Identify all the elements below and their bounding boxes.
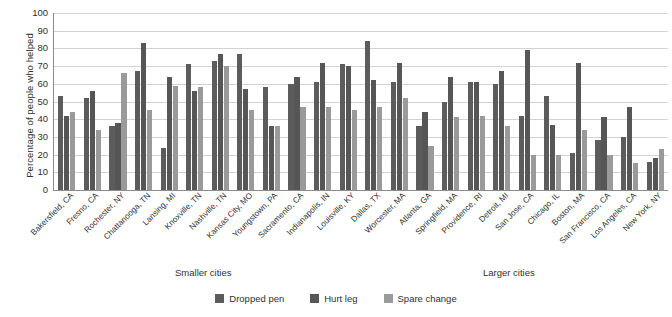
bar-2	[480, 116, 485, 190]
y-axis-tick-label: 20	[21, 150, 48, 160]
bar-0	[365, 41, 370, 190]
legend-item[interactable]: Dropped pen	[215, 293, 284, 304]
y-axis-tick-label: 50	[21, 97, 48, 107]
y-axis-tick-label: 90	[21, 26, 48, 36]
chart-legend: Dropped penHurt legSpare change	[0, 293, 672, 304]
y-axis-tick-label: 0	[21, 185, 48, 195]
bar-chart-figure: Percentage of people who helped 10090807…	[0, 0, 672, 317]
bar-group	[391, 13, 408, 190]
bar-group	[519, 13, 536, 190]
bar-2	[582, 130, 587, 190]
bar-0	[58, 96, 63, 190]
bar-2	[352, 110, 357, 190]
legend-item[interactable]: Hurt leg	[310, 293, 357, 304]
legend-swatch-icon	[215, 294, 224, 303]
bar-2	[454, 117, 459, 190]
y-axis-tick-label: 40	[21, 114, 48, 124]
legend-label: Hurt leg	[324, 293, 357, 304]
y-axis-tick-label: 80	[21, 43, 48, 53]
x-axis-labels: Bakersfield, CAFresno, CARochester, NYCh…	[53, 191, 667, 263]
bar-1	[64, 116, 69, 190]
y-axis-tick-label: 100	[21, 8, 48, 18]
bar-2	[300, 107, 305, 190]
bar-2	[70, 112, 75, 190]
legend-label: Dropped pen	[229, 293, 284, 304]
caption-smaller-cities: Smaller cities	[175, 267, 232, 278]
legend-label: Spare change	[398, 293, 457, 304]
legend-item[interactable]: Spare change	[384, 293, 457, 304]
bar-2	[377, 107, 382, 190]
y-axis-tick-label: 60	[21, 79, 48, 89]
y-axis-tick-label: 10	[21, 167, 48, 177]
bar-2	[249, 110, 254, 190]
bar-2	[147, 110, 152, 190]
y-axis-tick-label: 30	[21, 132, 48, 142]
legend-swatch-icon	[310, 294, 319, 303]
caption-larger-cities: Larger cities	[483, 267, 535, 278]
bar-2	[326, 107, 331, 190]
bar-group	[58, 13, 75, 190]
legend-swatch-icon	[384, 294, 393, 303]
y-axis-tick-label: 70	[21, 61, 48, 71]
